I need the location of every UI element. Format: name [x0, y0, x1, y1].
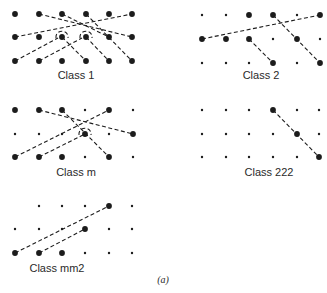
lattice-point-large: [106, 154, 112, 160]
lattice-point-small: [296, 62, 298, 64]
lattice-point-large: [59, 250, 65, 256]
lattice-point-small: [248, 109, 250, 111]
lattice-point-large: [36, 58, 42, 64]
lattice-point-large: [59, 34, 65, 40]
lattice-point-small: [132, 156, 134, 158]
panel-label: Class m: [56, 166, 96, 178]
lattice-point-large: [106, 203, 112, 209]
figure-caption: (a): [157, 274, 169, 286]
lattice-point-large: [246, 12, 252, 18]
lattice-point-small: [272, 133, 274, 135]
lattice-point-small: [318, 109, 320, 111]
pair-connector-line: [39, 229, 85, 253]
panel-label: Class 222: [245, 166, 294, 178]
lattice-point-small: [131, 205, 133, 207]
lattice-point-small: [201, 109, 203, 111]
lattice-point-large: [246, 36, 252, 42]
lattice-point-small: [61, 205, 63, 207]
lattice-point-small: [108, 228, 110, 230]
lattice-point-small: [248, 156, 250, 158]
pair-connector-line: [15, 14, 132, 37]
panel-label: Class 2: [243, 69, 280, 81]
pair-connector-line: [62, 37, 86, 61]
lattice-point-large: [270, 107, 276, 113]
lattice-point-large: [59, 11, 65, 17]
lattice-point-large: [12, 34, 18, 40]
lattice-point-large: [129, 34, 135, 40]
lattice-point-large: [12, 11, 18, 17]
lattice-point-small: [14, 228, 16, 230]
lattice-point-large: [36, 107, 42, 113]
lattice-point-small: [201, 14, 203, 16]
lattice-point-large: [36, 154, 42, 160]
pair-connector-line: [39, 38, 82, 61]
panel-class-m: Class m: [12, 107, 136, 178]
lattice-point-small: [318, 133, 320, 135]
lattice-point-large: [36, 34, 42, 40]
lattice-point-large: [294, 131, 300, 137]
lattice-point-small: [84, 205, 86, 207]
lattice-point-small: [38, 228, 40, 230]
lattice-point-large: [106, 58, 112, 64]
panel-class-222: Class 222: [201, 107, 322, 178]
lattice-point-small: [296, 109, 298, 111]
lattice-point-large: [130, 131, 136, 137]
lattice-point-large: [317, 60, 323, 66]
lattice-point-small: [201, 133, 203, 135]
lattice-point-large: [59, 58, 65, 64]
lattice-point-small: [225, 109, 227, 111]
lattice-point-large: [36, 250, 42, 256]
lattice-point-large: [12, 154, 18, 160]
lattice-point-small: [132, 109, 134, 111]
panel-class-1: Class 1: [12, 11, 135, 81]
lattice-point-small: [248, 62, 250, 64]
lattice-point-large: [82, 131, 88, 137]
lattice-point-small: [131, 252, 133, 254]
lattice-point-small: [225, 14, 227, 16]
lattice-point-large: [129, 11, 135, 17]
pair-connector-line: [39, 134, 85, 157]
lattice-point-large: [82, 226, 88, 232]
pair-connector-line: [249, 39, 273, 63]
lattice-point-small: [248, 133, 250, 135]
lattice-point-large: [83, 34, 89, 40]
lattice-point-large: [83, 58, 89, 64]
lattice-point-large: [83, 11, 89, 17]
lattice-point-small: [131, 228, 133, 230]
lattice-point-small: [14, 133, 16, 135]
symmetry-class-diagram: Class 1Class 2Class mClass 222Class mm2 …: [0, 0, 327, 293]
lattice-point-large: [270, 60, 276, 66]
lattice-point-large: [199, 36, 205, 42]
lattice-point-small: [296, 14, 298, 16]
lattice-point-small: [272, 38, 274, 40]
lattice-point-large: [106, 107, 112, 113]
lattice-point-large: [129, 58, 135, 64]
lattice-point-small: [108, 252, 110, 254]
lattice-point-small: [61, 133, 63, 135]
panel-class-mm2: Class mm2: [12, 203, 133, 274]
lattice-point-large: [106, 34, 112, 40]
lattice-point-small: [61, 228, 63, 230]
panel-class-2: Class 2: [199, 12, 323, 81]
lattice-point-small: [225, 62, 227, 64]
lattice-point-small: [201, 156, 203, 158]
panel-label: Class mm2: [29, 262, 84, 274]
lattice-point-large: [317, 12, 323, 18]
lattice-point-large: [223, 36, 229, 42]
lattice-point-large: [316, 154, 322, 160]
lattice-point-large: [106, 11, 112, 17]
lattice-point-large: [12, 250, 18, 256]
pair-connector-line: [86, 37, 109, 61]
lattice-point-small: [38, 205, 40, 207]
lattice-point-small: [84, 109, 86, 111]
lattice-point-small: [84, 252, 86, 254]
lattice-point-small: [225, 156, 227, 158]
pair-connector-line: [62, 14, 109, 37]
pair-connector-line: [202, 15, 320, 39]
pair-connector-line: [15, 38, 58, 61]
panel-label: Class 1: [58, 69, 95, 81]
lattice-point-large: [59, 107, 65, 113]
lattice-point-large: [294, 36, 300, 42]
lattice-point-large: [59, 154, 65, 160]
lattice-point-large: [270, 12, 276, 18]
